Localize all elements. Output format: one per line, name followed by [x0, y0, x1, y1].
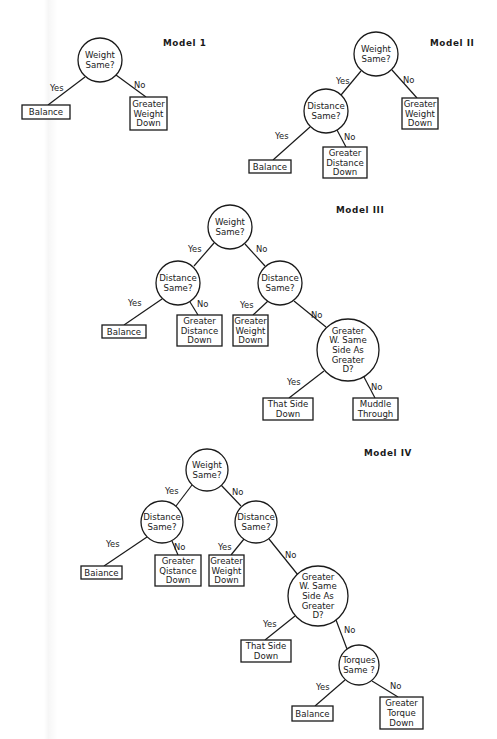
edge-label-yes: Yes — [315, 682, 330, 692]
edge-label-yes: Yes — [274, 131, 289, 141]
node-label: Distance — [143, 512, 181, 522]
node-label: Same? — [216, 227, 245, 237]
edge-label-yes: Yes — [262, 619, 277, 629]
outcome-box: GreaterWeightDown — [209, 555, 244, 586]
outcome-box: That SideDown — [263, 398, 313, 420]
node-label: Weight — [192, 460, 223, 470]
edge-label-yes: Yes — [286, 377, 301, 387]
decision-node: DistanceSame? — [258, 261, 302, 305]
outcome-box: GreaterWeightDown — [233, 315, 268, 346]
outcome-box: GreaterWeightDown — [402, 98, 438, 129]
edge-yes — [253, 301, 268, 315]
edge-label-no: No — [371, 382, 382, 392]
node-label: Greater — [385, 698, 418, 708]
node-label: Weight — [212, 566, 243, 576]
decision-node: DistanceSame? — [304, 89, 348, 133]
edge-label-yes: Yes — [335, 76, 350, 86]
model-4: Model IVYesNoYesNoYesNoYesNoYesNoWeightS… — [81, 448, 423, 729]
outcome-box: MuddleThrough — [353, 398, 398, 420]
edge-label-no: No — [134, 80, 145, 90]
outcome-box: Baiance — [81, 566, 122, 579]
edge-yes — [231, 539, 244, 555]
node-label: Down — [136, 118, 160, 128]
edge-label-yes: Yes — [239, 300, 254, 310]
node-label: Side As — [302, 591, 334, 601]
edge-label-no: No — [311, 310, 322, 320]
node-label: Same ? — [343, 665, 375, 675]
node-label: Distance — [181, 326, 219, 336]
decision-node: GreaterW. SameSide AsGreaterD? — [317, 319, 379, 381]
node-label: Same? — [193, 470, 222, 480]
node-label: Torques — [341, 655, 376, 665]
node-label: Greater — [404, 99, 437, 109]
node-label: Distance — [237, 512, 275, 522]
node-label: Weight — [134, 109, 165, 119]
node-label: Down — [238, 335, 262, 345]
node-label: That Side — [245, 641, 287, 651]
node-label: Greater — [302, 601, 335, 611]
edge-label-no: No — [232, 487, 243, 497]
node-label: Baiance — [84, 568, 118, 578]
decision-node: TorquesSame ? — [339, 645, 379, 685]
node-label: Down — [254, 651, 278, 661]
node-label: Weight — [236, 326, 267, 336]
node-label: Balance — [107, 327, 141, 337]
edge-label-yes: Yes — [164, 486, 179, 496]
node-label: Same? — [312, 111, 341, 121]
node-label: Down — [166, 575, 190, 585]
outcome-box: GreaterDistanceDown — [177, 315, 222, 346]
node-label: Qistance — [159, 566, 197, 576]
edge-label-yes: Yes — [105, 539, 120, 549]
node-label: Weight — [361, 44, 392, 54]
edge-label-no: No — [344, 132, 355, 142]
outcome-box: GreaterWeightDown — [130, 97, 167, 130]
node-label: Greater — [332, 326, 365, 336]
edge-label-yes: Yes — [127, 298, 142, 308]
node-label: Distance — [307, 101, 345, 111]
node-label: Balance — [253, 162, 287, 172]
decision-node: DistanceSame? — [141, 501, 183, 543]
node-label: Weight — [85, 50, 116, 60]
node-label: Side As — [332, 345, 364, 355]
outcome-box: GreaterTorqueDown — [380, 697, 423, 729]
model-title: Model 1 — [163, 38, 206, 48]
node-label: Weight — [405, 109, 436, 119]
node-label: Down — [276, 409, 300, 419]
node-label: D? — [342, 364, 353, 374]
edge-label-yes: Yes — [49, 83, 64, 93]
outcome-box: Balance — [102, 325, 146, 338]
node-label: Distance — [261, 273, 299, 283]
node-label: Greater — [302, 572, 335, 582]
node-label: Greater — [329, 148, 362, 158]
decision-node: GreaterW. SameSide AsGreaterD? — [288, 566, 348, 626]
outcome-box: That SideDown — [241, 640, 291, 662]
node-label: Greater — [210, 556, 243, 566]
decision-node: DistanceSame? — [156, 261, 200, 305]
node-label: Same? — [266, 283, 295, 293]
model-3: Model IIIYesNoYesNoYesNoYesNoWeightSame?… — [102, 205, 398, 420]
node-label: Distance — [159, 273, 197, 283]
edge-label-no: No — [390, 681, 401, 691]
node-label: Torque — [386, 708, 416, 718]
node-label: Muddle — [360, 399, 391, 409]
model-title: Model IV — [364, 448, 412, 458]
node-label: Down — [214, 575, 238, 585]
model-title: Model III — [336, 205, 384, 215]
node-label: Greater — [234, 316, 267, 326]
edge-label-yes: Yes — [217, 542, 232, 552]
outcome-box: GreaterDistanceDown — [323, 147, 367, 178]
node-label: Greater — [162, 556, 195, 566]
node-label: W. Same — [329, 335, 366, 345]
node-label: Same? — [86, 60, 115, 70]
model-title: Model II — [430, 38, 475, 48]
edge-label-no: No — [403, 75, 414, 85]
node-label: Distance — [326, 158, 364, 168]
node-label: That Side — [267, 399, 309, 409]
node-label: D? — [312, 610, 323, 620]
node-label: Greater — [132, 99, 165, 109]
node-label: Same? — [148, 522, 177, 532]
edge-label-no: No — [256, 244, 267, 254]
node-label: Down — [389, 718, 413, 728]
node-label: W. Same — [299, 581, 336, 591]
decision-node: DistanceSame? — [235, 501, 277, 543]
